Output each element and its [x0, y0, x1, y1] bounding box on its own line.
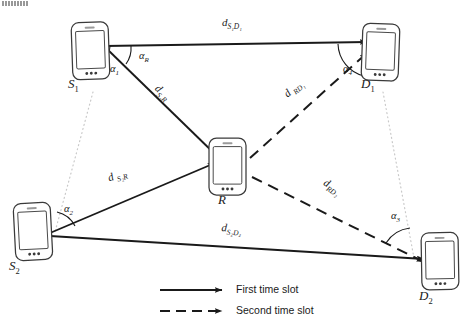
reference-line-sources	[55, 92, 93, 232]
angle-arc-alpha-3	[386, 228, 410, 243]
angle-label-alpha-r: αR	[139, 50, 149, 64]
legend-second-time-slot: Second time slot	[236, 304, 314, 316]
link-s2-d2	[50, 236, 424, 259]
link-s1-d1	[105, 42, 367, 46]
figure-canvas: S1 S2 R D1 D2 dS₁D₁ dS₁R d S₂R dS₂D₂ d R…	[0, 0, 467, 331]
angle-label-alpha-2: α2	[64, 203, 73, 217]
angle-label-alpha-4: α4	[343, 63, 352, 77]
node-label-source-2: S2	[9, 258, 20, 276]
angle-label-alpha-1: α1	[110, 63, 119, 77]
reference-line-destinations	[383, 92, 414, 258]
device-destination-1	[361, 23, 400, 81]
device-relay	[209, 138, 246, 195]
device-destination-2	[421, 232, 459, 290]
node-label-relay: R	[218, 192, 226, 210]
node-label-source-1: S1	[68, 76, 79, 94]
node-label-destination-1: D1	[361, 76, 375, 94]
angle-label-alpha-3: α3	[391, 210, 400, 224]
link-s2-r	[50, 163, 215, 233]
distance-label-s1-d1: dS₁D₁	[222, 16, 242, 31]
angle-arc-alpha-r	[126, 46, 131, 64]
device-source-2	[13, 202, 53, 261]
diagram-svg	[0, 0, 467, 331]
device-source-1	[71, 22, 110, 80]
distance-label-s2-d2: dS₂D₂	[221, 221, 242, 238]
node-label-destination-2: D2	[419, 288, 433, 306]
legend-first-time-slot: First time slot	[236, 283, 298, 295]
